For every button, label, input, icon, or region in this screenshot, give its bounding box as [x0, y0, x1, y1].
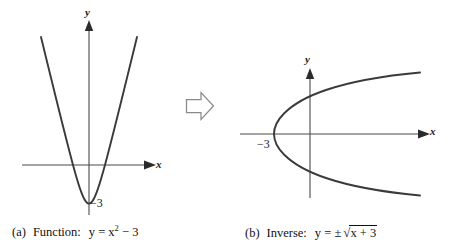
caption-function: (a)Function:y = x2 − 3	[12, 225, 138, 240]
y-axis-label: y	[305, 53, 310, 65]
caption-a-tail: − 3	[122, 225, 138, 239]
caption-b-tag: (b)	[245, 226, 260, 240]
x-axis-label: x	[156, 158, 162, 170]
caption-inverse: (b)Inverse:y = ±√x + 3	[245, 225, 377, 241]
caption-b-radicand: x + 3	[349, 225, 377, 241]
caption-b-equation: y = ±√x + 3	[315, 226, 377, 240]
panel-b-plot	[230, 0, 454, 215]
caption-a-equals: =	[98, 225, 105, 239]
caption-b-equals: =	[324, 226, 331, 240]
caption-b-plusminus: ±	[334, 226, 341, 240]
caption-a-equation: y = x2 − 3	[89, 225, 139, 239]
transform-arrow	[183, 88, 217, 124]
right-block-arrow-icon	[183, 88, 217, 124]
caption-b-radical: √x + 3	[341, 225, 377, 241]
y-axis	[306, 68, 314, 198]
captions-row: (a)Function:y = x2 − 3 (b)Inverse:y = ±√…	[0, 215, 454, 250]
y-axis	[85, 20, 93, 215]
caption-b-word: Inverse:	[267, 226, 307, 240]
vertex-value-label: −3	[90, 196, 103, 211]
caption-b-lhs: y	[315, 226, 321, 240]
caption-a-tag: (a)	[12, 225, 26, 239]
y-axis-label: y	[85, 6, 90, 18]
panel-inverse-graph: y x −3	[230, 0, 454, 215]
caption-a-lhs: y	[89, 225, 95, 239]
x-intercept-value-label: −3	[257, 137, 270, 152]
figure-function-and-inverse: y x −3 y x −3	[0, 0, 454, 250]
x-axis-label: x	[430, 125, 436, 137]
caption-a-word: Function:	[33, 225, 81, 239]
caption-a-exponent: 2	[115, 223, 119, 233]
inverse-upper-branch	[274, 73, 420, 135]
panel-function-graph: y x −3	[0, 0, 180, 215]
panel-a-plot	[0, 0, 180, 215]
inverse-lower-branch	[274, 134, 420, 196]
